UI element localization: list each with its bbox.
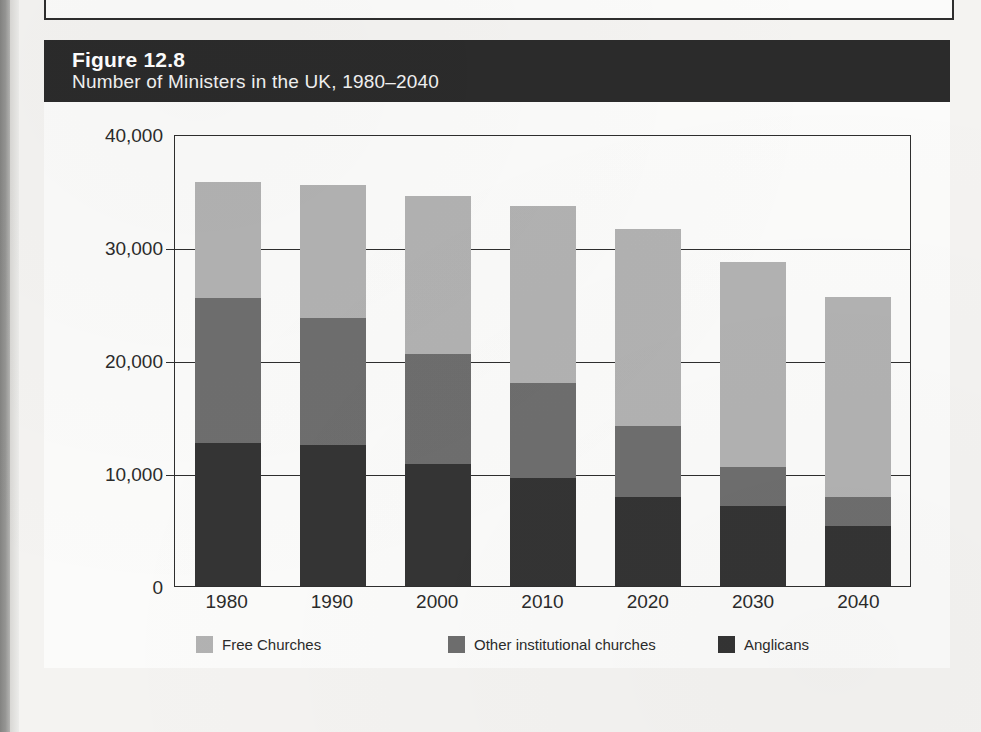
y-axis-label: 10,000 <box>105 464 163 486</box>
bar-segment <box>825 297 891 497</box>
legend-label: Other institutional churches <box>474 636 656 653</box>
bar-segment <box>615 426 681 497</box>
bar-segment <box>300 185 366 318</box>
x-axis-label-2030: 2030 <box>720 591 786 621</box>
y-axis-label: 20,000 <box>105 351 163 373</box>
y-axis-tick <box>166 362 175 363</box>
y-axis-label: 40,000 <box>105 125 163 147</box>
x-axis-labels: 1980199020002010202020302040 <box>174 591 911 621</box>
bar-segment <box>300 318 366 445</box>
legend-swatch-medium <box>448 636 465 653</box>
x-axis-label-2010: 2010 <box>509 591 575 621</box>
x-axis-label-1990: 1990 <box>299 591 365 621</box>
y-axis-tick <box>166 475 175 476</box>
page-binding-shadow <box>0 0 10 732</box>
bar-segment <box>405 196 471 354</box>
bar-segment <box>195 443 261 587</box>
bar-column <box>195 136 261 586</box>
bar-segment <box>720 467 786 505</box>
bar-segment <box>195 182 261 298</box>
bar-segment <box>825 526 891 586</box>
figure-container: Figure 12.8 Number of Ministers in the U… <box>44 40 950 668</box>
x-axis-label-2000: 2000 <box>404 591 470 621</box>
chart-legend: Free ChurchesOther institutional churche… <box>196 631 896 657</box>
x-axis-label-2020: 2020 <box>615 591 681 621</box>
bar-column <box>615 136 681 586</box>
figure-header: Figure 12.8 Number of Ministers in the U… <box>44 40 950 102</box>
bar-column <box>825 136 891 586</box>
x-axis-label-1980: 1980 <box>194 591 260 621</box>
legend-item: Anglicans <box>718 636 809 653</box>
chart-area: 40,00030,00020,00010,0000 19801990200020… <box>44 102 950 668</box>
legend-swatch-light <box>196 636 213 653</box>
bar-segment <box>405 464 471 586</box>
legend-label: Anglicans <box>744 636 809 653</box>
bar-segment <box>720 262 786 468</box>
bar-column <box>300 136 366 586</box>
bar-group <box>175 136 910 586</box>
bar-segment <box>510 478 576 586</box>
bar-segment <box>300 445 366 586</box>
bar-segment <box>405 354 471 464</box>
figure-title: Number of Ministers in the UK, 1980–2040 <box>72 71 439 93</box>
bar-column <box>510 136 576 586</box>
legend-item: Free Churches <box>196 636 448 653</box>
bar-column <box>405 136 471 586</box>
bar-segment <box>615 497 681 586</box>
bar-segment <box>825 497 891 526</box>
bar-segment <box>720 506 786 586</box>
bar-segment <box>510 206 576 382</box>
bar-segment <box>510 383 576 478</box>
figure-number: Figure 12.8 <box>72 48 185 72</box>
x-axis-label-2040: 2040 <box>825 591 891 621</box>
bar-column <box>720 136 786 586</box>
bar-segment <box>195 298 261 443</box>
page-box-remnant <box>44 0 954 20</box>
book-page: Figure 12.8 Number of Ministers in the U… <box>0 0 981 732</box>
legend-swatch-dark <box>718 636 735 653</box>
y-axis-label: 30,000 <box>105 238 163 260</box>
y-axis-label: 0 <box>152 577 163 599</box>
legend-item: Other institutional churches <box>448 636 718 653</box>
bar-segment <box>615 229 681 426</box>
legend-label: Free Churches <box>222 636 321 653</box>
plot-area: 40,00030,00020,00010,0000 <box>174 135 911 587</box>
y-axis-tick <box>166 249 175 250</box>
page-margin-strip <box>10 0 19 732</box>
